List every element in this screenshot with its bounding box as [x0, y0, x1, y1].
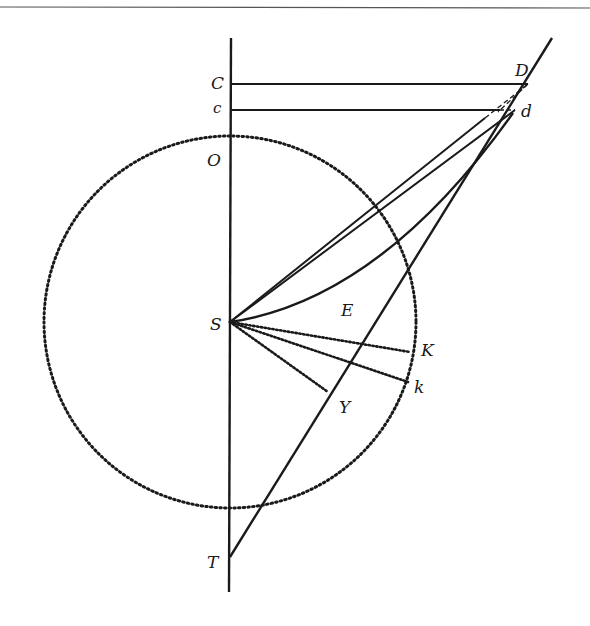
label-K: K	[421, 342, 434, 359]
label-D: D	[515, 62, 529, 79]
label-d: d	[521, 103, 532, 120]
label-S: S	[210, 316, 222, 333]
tangent-line-DT	[230, 38, 552, 557]
diagram-canvas	[0, 0, 590, 626]
chord-Sd	[230, 110, 515, 322]
top-rule	[0, 7, 590, 8]
label-k: k	[414, 379, 424, 396]
label-C: C	[211, 75, 224, 92]
label-Y: Y	[339, 399, 350, 416]
label-c: c	[213, 101, 221, 116]
label-E: E	[341, 302, 353, 319]
chord-SD	[230, 118, 485, 322]
label-O: O	[207, 152, 221, 169]
dotted-Sk	[230, 322, 408, 382]
dotted-SY	[230, 322, 328, 392]
label-T: T	[207, 554, 218, 571]
dotted-SK	[230, 322, 410, 352]
